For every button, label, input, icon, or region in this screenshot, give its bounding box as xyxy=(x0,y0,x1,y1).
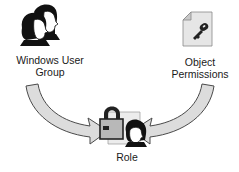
group-label-line1: Windows User xyxy=(8,54,92,66)
permissions-label-line1: Object xyxy=(166,56,234,68)
arrow-group-to-role xyxy=(26,84,108,144)
node-permissions-label: Object Permissions xyxy=(166,56,234,80)
lock-user-role-icon xyxy=(100,107,147,148)
permissions-label-line2: Permissions xyxy=(166,68,234,80)
group-label-line2: Group xyxy=(8,66,92,78)
node-group-label: Windows User Group xyxy=(8,54,92,78)
node-role-label: Role xyxy=(107,151,147,163)
key-document-icon xyxy=(183,12,212,46)
user-group-icon xyxy=(20,5,60,46)
role-diagram: Windows User Group Object Permissions Ro… xyxy=(0,0,239,172)
diagram-graphics xyxy=(0,0,239,172)
